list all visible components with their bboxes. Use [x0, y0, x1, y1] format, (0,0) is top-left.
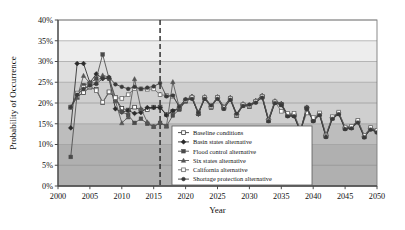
- data-point-marker: [362, 136, 366, 140]
- legend-label: Basin states alternative: [193, 138, 252, 145]
- data-point-marker: [228, 98, 232, 102]
- data-point-marker: [133, 105, 137, 109]
- data-point-marker: [101, 100, 105, 104]
- chart-figure: 0%5%10%15%20%25%30%35%40%200020052010201…: [0, 0, 405, 230]
- data-point-marker: [182, 177, 186, 181]
- background-band-25-30: [58, 62, 377, 83]
- data-point-marker: [120, 85, 124, 89]
- data-point-marker: [114, 96, 118, 100]
- data-point-marker: [375, 131, 379, 135]
- data-point-marker: [260, 96, 264, 100]
- y-tick-label-25: 25%: [38, 78, 53, 87]
- y-tick-label-5: 5%: [42, 161, 53, 170]
- x-tick-label-2020: 2020: [177, 192, 193, 201]
- data-point-marker: [369, 128, 373, 132]
- data-point-marker: [82, 87, 86, 91]
- data-point-marker: [190, 97, 194, 101]
- data-point-marker: [158, 81, 162, 85]
- legend-label: Shortage protection alternative: [193, 175, 272, 182]
- y-tick-label-40: 40%: [38, 16, 53, 25]
- data-point-marker: [273, 101, 277, 105]
- data-point-marker: [177, 105, 181, 109]
- y-tick-label-35: 35%: [38, 37, 53, 46]
- data-point-marker: [203, 97, 207, 101]
- legend-label: Baseline conditions: [193, 129, 244, 136]
- data-point-marker: [182, 149, 186, 153]
- data-point-marker: [209, 104, 213, 108]
- chart-legend: Baseline conditionsBasin states alternat…: [172, 126, 312, 185]
- data-point-marker: [107, 90, 111, 94]
- data-point-marker: [279, 109, 283, 113]
- data-point-marker: [324, 135, 328, 139]
- data-point-marker: [133, 121, 137, 125]
- data-point-marker: [126, 93, 130, 97]
- data-point-marker: [182, 131, 186, 135]
- data-point-marker: [292, 114, 296, 118]
- legend-label: Flood control alternative: [193, 148, 256, 155]
- data-point-marker: [139, 87, 143, 91]
- data-point-marker: [356, 121, 360, 125]
- x-tick-label-2000: 2000: [50, 192, 66, 201]
- data-point-marker: [114, 82, 118, 86]
- x-tick-label-2030: 2030: [241, 192, 257, 201]
- x-tick-label-2050: 2050: [369, 192, 385, 201]
- data-point-marker: [101, 77, 105, 81]
- data-point-marker: [88, 84, 92, 88]
- data-point-marker: [254, 101, 258, 105]
- data-point-marker: [222, 107, 226, 111]
- data-point-marker: [330, 117, 334, 121]
- data-point-marker: [318, 113, 322, 117]
- data-point-marker: [305, 107, 309, 111]
- data-point-marker: [337, 112, 341, 116]
- data-point-marker: [107, 75, 111, 79]
- data-point-marker: [94, 82, 98, 86]
- background-band-30-35: [58, 41, 377, 62]
- data-point-marker: [94, 77, 98, 81]
- data-point-marker: [241, 104, 245, 108]
- data-point-marker: [279, 103, 283, 107]
- data-point-marker: [69, 105, 73, 109]
- x-tick-label-2010: 2010: [114, 192, 130, 201]
- legend-label: California alternative: [193, 166, 248, 173]
- x-tick-label-2045: 2045: [337, 192, 353, 201]
- data-point-marker: [82, 91, 86, 95]
- data-point-marker: [165, 95, 169, 99]
- probability-of-occurrence-line-chart: 0%5%10%15%20%25%30%35%40%200020052010201…: [0, 0, 405, 230]
- data-point-marker: [94, 89, 98, 93]
- data-point-marker: [139, 117, 143, 121]
- background-band-35-40: [58, 20, 377, 41]
- x-tick-label-2015: 2015: [146, 192, 162, 201]
- x-tick-label-2040: 2040: [305, 192, 321, 201]
- data-point-marker: [101, 53, 105, 57]
- y-tick-label-10: 10%: [38, 140, 53, 149]
- y-axis-title: Probability of Occurrence: [8, 56, 18, 149]
- data-point-marker: [235, 112, 239, 116]
- y-tick-label-15: 15%: [38, 120, 53, 129]
- legend-item-shortage-protection-alternative[interactable]: Shortage protection alternative: [178, 175, 272, 182]
- x-tick-label-2005: 2005: [82, 192, 98, 201]
- data-point-marker: [267, 119, 271, 123]
- data-point-marker: [350, 126, 354, 130]
- legend-label: Six states alternative: [193, 157, 246, 164]
- data-point-marker: [152, 85, 156, 89]
- data-point-marker: [311, 119, 315, 123]
- data-point-marker: [286, 114, 290, 118]
- y-tick-label-0: 0%: [42, 182, 53, 191]
- data-point-marker: [69, 155, 73, 159]
- data-point-marker: [126, 87, 130, 91]
- data-point-marker: [171, 114, 175, 118]
- y-tick-label-20: 20%: [38, 99, 53, 108]
- y-tick-label-30: 30%: [38, 57, 53, 66]
- data-point-marker: [182, 168, 186, 172]
- data-point-marker: [343, 127, 347, 131]
- x-tick-label-2025: 2025: [209, 192, 225, 201]
- data-point-marker: [75, 93, 79, 97]
- data-point-marker: [216, 97, 220, 101]
- data-point-marker: [120, 110, 124, 114]
- x-tick-label-2035: 2035: [273, 192, 289, 201]
- x-axis-title: Year: [209, 205, 226, 215]
- data-point-marker: [158, 93, 162, 97]
- data-point-marker: [133, 85, 137, 89]
- data-point-marker: [184, 97, 188, 101]
- data-point-marker: [145, 86, 149, 90]
